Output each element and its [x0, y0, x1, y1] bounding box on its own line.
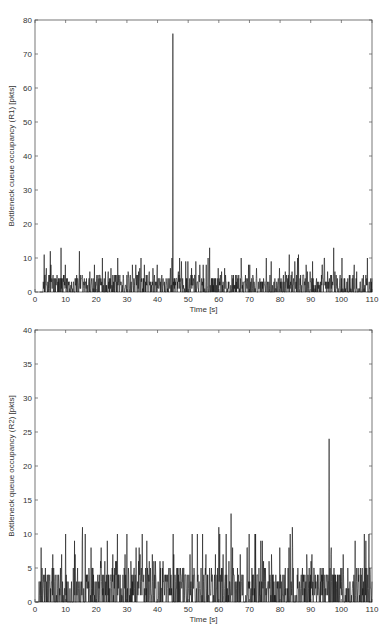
- x-tick-label: 0: [33, 295, 38, 304]
- x-tick-label: 80: [276, 605, 285, 614]
- x-tick-label: 20: [92, 295, 101, 304]
- y-tick-label: 80: [23, 16, 32, 25]
- x-tick-label: 50: [184, 605, 193, 614]
- x-tick-label: 10: [61, 605, 70, 614]
- y-tick-label: 20: [23, 462, 32, 471]
- y-tick-label: 40: [23, 152, 32, 161]
- y-tick-label: 25: [23, 428, 32, 437]
- x-tick-label: 110: [366, 295, 379, 304]
- x-tick-label: 90: [306, 295, 315, 304]
- chart-r1-canvas: 0102030405060708090100110010203040506070…: [0, 0, 390, 315]
- x-tick-label: 30: [122, 295, 131, 304]
- y-tick-label: 60: [23, 84, 32, 93]
- y-tick-label: 20: [23, 220, 32, 229]
- y-tick-label: 5: [28, 564, 33, 573]
- y-tick-label: 10: [23, 254, 32, 263]
- y-tick-label: 30: [23, 186, 32, 195]
- y-axis-label: Bottleneck queue occupancy (R2) [pkts]: [7, 395, 16, 536]
- y-tick-label: 70: [23, 50, 32, 59]
- plot-area-frame: [35, 20, 372, 292]
- x-tick-label: 20: [92, 605, 101, 614]
- x-tick-label: 60: [214, 295, 223, 304]
- y-tick-label: 30: [23, 394, 32, 403]
- y-tick-label: 0: [28, 288, 33, 297]
- x-tick-label: 0: [33, 605, 38, 614]
- x-tick-label: 80: [276, 295, 285, 304]
- y-tick-label: 40: [23, 326, 32, 335]
- x-tick-label: 90: [306, 605, 315, 614]
- chart-r2: 0102030405060708090100110051015202530354…: [0, 310, 390, 630]
- data-series-line: [36, 439, 372, 602]
- x-tick-label: 10: [61, 295, 70, 304]
- y-axis-label: Bottleneck cueue occupancy (R1) [pkts]: [7, 86, 16, 227]
- y-tick-label: 15: [23, 496, 32, 505]
- x-tick-label: 100: [335, 605, 349, 614]
- x-tick-label: 60: [214, 605, 223, 614]
- x-tick-label: 50: [184, 295, 193, 304]
- x-tick-label: 30: [122, 605, 131, 614]
- y-tick-label: 50: [23, 118, 32, 127]
- x-axis-label: Time [s]: [189, 615, 217, 624]
- chart-r2-canvas: 0102030405060708090100110051015202530354…: [0, 310, 390, 630]
- chart-r1: 0102030405060708090100110010203040506070…: [0, 0, 390, 315]
- x-tick-label: 70: [245, 605, 254, 614]
- x-tick-label: 70: [245, 295, 254, 304]
- x-tick-label: 40: [153, 605, 162, 614]
- data-series-line: [40, 34, 372, 292]
- y-tick-label: 10: [23, 530, 32, 539]
- x-tick-label: 110: [366, 605, 379, 614]
- y-tick-label: 0: [28, 598, 33, 607]
- y-tick-label: 35: [23, 360, 32, 369]
- x-tick-label: 100: [335, 295, 349, 304]
- x-tick-label: 40: [153, 295, 162, 304]
